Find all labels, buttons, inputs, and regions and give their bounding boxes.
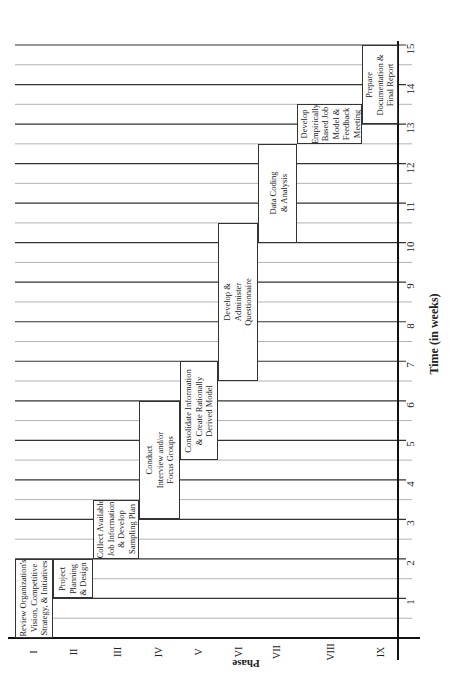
phase-tick-label: III <box>112 647 123 657</box>
week-tick-label: 4 <box>404 481 416 487</box>
task-label: Data Coding & Analysis <box>267 172 288 215</box>
week-tick-label: 3 <box>404 521 416 527</box>
week-tick-label: 9 <box>404 283 416 289</box>
week-tick-label: 7 <box>404 363 416 369</box>
phase-tick-label: VI <box>233 647 244 658</box>
week-tick-label: 13 <box>404 123 416 134</box>
task-bar-phase-vi: Develop & Administer Questionnaire <box>218 223 258 381</box>
task-label: Review Organization's Vision, Competitiv… <box>18 560 50 637</box>
task-bar-phase-iii: Collect Available Job Information & Deve… <box>93 500 139 559</box>
task-bar-phase-iv: Conduct Interview and/or Focus Groups <box>139 401 180 520</box>
task-label: Consolidate Information & Create Rationa… <box>183 369 215 452</box>
week-tick-label: 5 <box>404 442 416 448</box>
task-label: Develop & Administer Questionnaire <box>222 278 254 326</box>
week-tick-label: 15 <box>404 44 416 55</box>
task-label: Collect Available Job Information & Deve… <box>95 500 137 559</box>
week-tick-label: 12 <box>404 162 416 173</box>
week-tick-label: 6 <box>404 402 416 408</box>
task-bar-phase-ix: Prepare Documentation & Final Report <box>362 45 398 124</box>
phase-axis-title: Phase <box>232 658 260 670</box>
task-bar-phase-ii: Project Planning & Design <box>53 559 93 599</box>
week-tick-label: 10 <box>404 241 416 252</box>
task-bar-phase-vii: Data Coding & Analysis <box>258 144 297 243</box>
task-bar-phase-viii: Develop Empirically Based Job Model & Fe… <box>297 104 362 144</box>
phase-tick-label: IX <box>375 647 386 658</box>
week-tick-label: 2 <box>404 560 416 566</box>
phase-tick-label: V <box>193 648 204 655</box>
week-tick-label: 1 <box>404 600 416 606</box>
phase-tick-label: VII <box>271 645 282 659</box>
phase-tick-label: VIII <box>325 643 336 660</box>
week-tick-label: 8 <box>404 323 416 329</box>
week-tick-label: 11 <box>404 202 416 213</box>
task-label: Project Planning & Design <box>57 562 89 595</box>
task-label: Prepare Documentation & Final Report <box>364 54 396 115</box>
task-bar-phase-v: Consolidate Information & Create Rationa… <box>180 361 218 460</box>
week-tick-label: 14 <box>404 83 416 94</box>
task-bar-phase-i: Review Organization's Vision, Competitiv… <box>15 559 53 638</box>
task-label: Develop Empirically Based Job Model & Fe… <box>298 104 361 144</box>
task-label: Conduct Interview and/or Focus Groups <box>144 432 176 488</box>
time-axis-title: Time (in weeks) <box>427 293 442 374</box>
phase-tick-label: I <box>28 650 39 653</box>
phase-tick-label: IV <box>153 647 164 658</box>
phase-tick-label: II <box>68 649 79 656</box>
gantt-chart: Review Organization's Vision, Competitiv… <box>0 0 458 692</box>
